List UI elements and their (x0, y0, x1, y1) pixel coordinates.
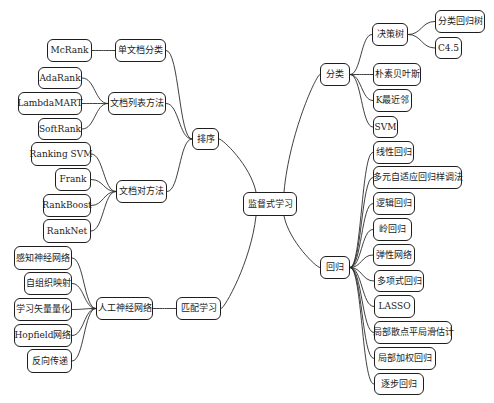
node-softrank[interactable]: SoftRank (38, 118, 82, 140)
node-lambdamart[interactable]: LambdaMART (18, 92, 82, 115)
connector-dtree-c45 (408, 35, 435, 49)
node-mcrank[interactable]: McRank (47, 39, 92, 62)
connector-ann-hopfield (72, 309, 96, 336)
node-hopfield-network[interactable]: Hopfield网络 (14, 324, 72, 347)
connector-dtree-cart (408, 22, 435, 35)
node-ranking-svm[interactable]: Ranking SVM (31, 142, 91, 166)
connector-root-regress (284, 216, 320, 268)
connector-regress-stepwise (350, 268, 374, 385)
connector-regress-lwr (350, 268, 374, 359)
connector-root-classify (284, 75, 320, 193)
node-self-organizing-map[interactable]: 自组织映射 (24, 272, 72, 295)
node-k-nearest-neighbors[interactable]: K最近邻 (373, 89, 412, 112)
node-decision-tree[interactable]: 决策树 (372, 23, 408, 46)
node-matching-learning[interactable]: 匹配学习 (176, 297, 221, 320)
node-perceptron-network[interactable]: 感知神经网络 (14, 246, 72, 270)
node-elastic-net[interactable]: 弹性网络 (373, 244, 415, 266)
node-regression[interactable]: 回归 (320, 256, 350, 279)
connector-root-match (221, 216, 256, 309)
connector-sort-doc_list (166, 104, 192, 140)
node-rankboost[interactable]: RankBoost (43, 194, 91, 217)
node-supervised-learning[interactable]: 监督式学习 (243, 192, 297, 216)
node-linear-regression[interactable]: 线性回归 (373, 141, 414, 164)
node-stepwise-regression[interactable]: 逐步回归 (374, 373, 424, 395)
node-c45[interactable]: C4.5 (435, 37, 462, 59)
node-backpropagation[interactable]: 反向传递 (27, 349, 72, 373)
node-listwise-method[interactable]: 文档列表方法 (108, 92, 166, 115)
connector-ann-perceptron (72, 258, 96, 309)
node-loess[interactable]: 局部散点平局滑估计 (374, 321, 452, 344)
node-classification[interactable]: 分类 (320, 63, 350, 86)
node-artificial-neural-network[interactable]: 人工神经网络 (96, 297, 153, 320)
connector-sort-doc_pair (167, 139, 192, 192)
node-pairwise-method[interactable]: 文档对方法 (116, 180, 167, 203)
node-lasso[interactable]: LASSO (374, 295, 415, 318)
node-svm[interactable]: SVM (373, 116, 398, 138)
connector-regress-linear (350, 153, 373, 268)
node-ranknet[interactable]: RankNet (43, 219, 91, 243)
node-locally-weighted-regression[interactable]: 局部加权回归 (374, 347, 436, 370)
connector-doc_list-adarank (82, 78, 108, 104)
mind-map: 监督式学习 排序 匹配学习 分类 回归 单文档分类 文档列表方法 文档对方法 M… (0, 0, 494, 403)
node-learning-vector-quantization[interactable]: 学习矢量量化 (14, 298, 72, 321)
connector-sort-single_doc (166, 51, 192, 140)
node-logistic-regression[interactable]: 逻辑回归 (373, 192, 415, 215)
connector-doc_pair-rankboost (91, 192, 116, 206)
node-cart[interactable]: 分类回归树 (435, 10, 485, 33)
connector-root-sort (219, 139, 256, 192)
node-single-doc-classification[interactable]: 单文档分类 (115, 39, 166, 62)
connector-regress-mars (350, 178, 373, 268)
node-frank[interactable]: Frank (55, 168, 91, 191)
connector-doc_pair-ranknet (91, 192, 116, 232)
connector-doc_list-softrank (82, 104, 108, 130)
node-mars[interactable]: 多元自适应回归样调法 (373, 166, 462, 189)
node-ridge-regression[interactable]: 岭回归 (373, 218, 412, 241)
connector-classify-dtree (350, 35, 372, 75)
connector-classify-svm (350, 75, 373, 128)
node-adarank[interactable]: AdaRank (38, 67, 82, 89)
connector-ann-som (72, 284, 96, 309)
node-ranking[interactable]: 排序 (192, 128, 219, 150)
connector-classify-knn (350, 75, 373, 101)
node-naive-bayes[interactable]: 朴素贝叶斯 (373, 63, 421, 86)
node-polynomial-regression[interactable]: 多项式回归 (374, 270, 424, 292)
